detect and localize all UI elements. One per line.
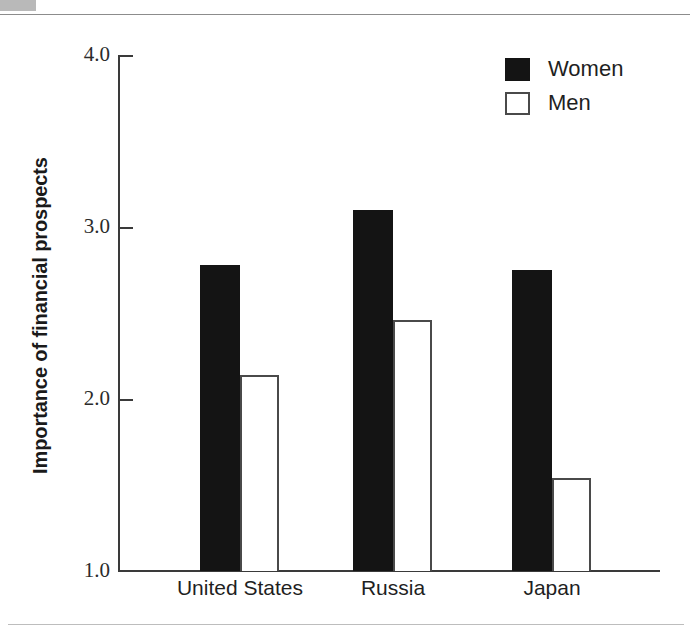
legend-swatch-women-icon — [505, 58, 530, 81]
bar-men-russia — [393, 320, 432, 571]
y-tick-label-4-wrap: 4.0 — [48, 55, 110, 56]
bar-women-united-states — [200, 265, 240, 571]
legend-swatch-men-icon — [505, 92, 530, 115]
bar-chart: Importance of financial prospects 4.0 3.… — [0, 14, 690, 624]
y-tick-label-1-wrap: 1.0 — [48, 571, 110, 572]
bar-men-united-states — [240, 375, 279, 571]
legend-label-men: Men — [548, 90, 591, 116]
y-tick-2 — [118, 399, 133, 401]
x-tick-label-japan: Japan — [472, 576, 632, 600]
legend-label-women: Women — [548, 56, 623, 82]
legend-item-women: Women — [505, 52, 623, 86]
y-tick-4 — [118, 55, 133, 57]
x-tick-label-united-states: United States — [160, 576, 320, 600]
chart-legend: Women Men — [505, 52, 623, 120]
bar-men-japan — [552, 478, 591, 571]
y-tick-label-2: 2.0 — [58, 388, 110, 409]
y-axis-label: Importance of financial prospects — [29, 116, 52, 516]
y-axis-line — [118, 55, 120, 572]
y-tick-label-3-wrap: 3.0 — [48, 227, 110, 228]
y-tick-label-4: 4.0 — [58, 44, 110, 65]
y-tick-3 — [118, 227, 133, 229]
x-tick-label-russia: Russia — [313, 576, 473, 600]
y-tick-label-1: 1.0 — [58, 560, 110, 581]
footer-rule — [8, 624, 684, 625]
bar-women-japan — [512, 270, 552, 571]
bar-women-russia — [353, 210, 393, 571]
y-tick-label-2-wrap: 2.0 — [48, 399, 110, 400]
chart-page: Importance of financial prospects 4.0 3.… — [0, 0, 690, 636]
legend-item-men: Men — [505, 86, 623, 120]
page-corner-marker — [0, 0, 36, 11]
y-tick-label-3: 3.0 — [58, 216, 110, 237]
